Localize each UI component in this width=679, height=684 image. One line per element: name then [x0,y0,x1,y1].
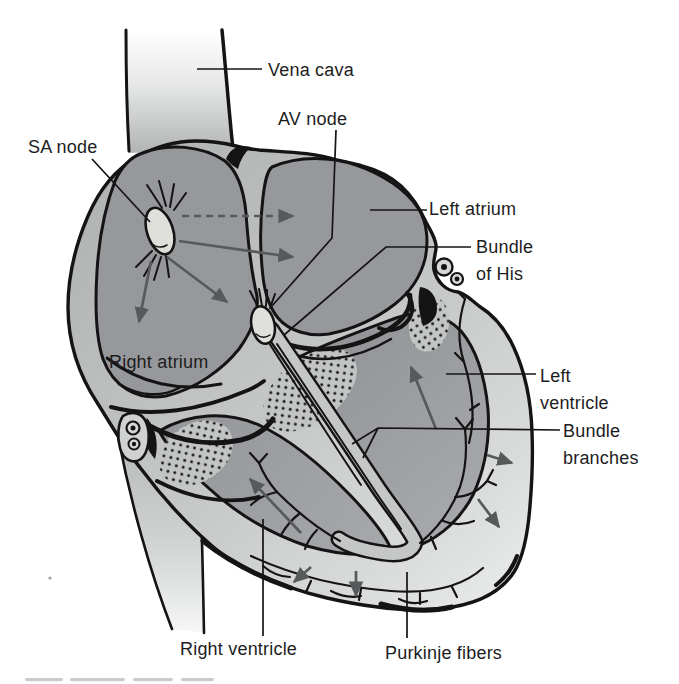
label-bundle-branches: Bundle branches [563,418,639,471]
label-sa-node: SA node [28,134,97,161]
label-left-ventricle-line1: Left [540,363,609,390]
label-right-atrium: Right atrium [109,349,208,376]
label-bundle-branches-line1: Bundle [563,418,639,445]
diagram-artwork [0,0,679,684]
label-bundle-of-his: Bundle of His [476,234,533,287]
label-left-atrium: Left atrium [429,196,516,223]
label-right-ventricle: Right ventricle [180,636,297,663]
heart-conduction-diagram: Vena cava AV node SA node Left atrium Bu… [0,0,679,684]
label-purkinje-fibers: Purkinje fibers [385,640,502,667]
label-bundle-of-his-line2: of His [476,261,533,288]
label-bundle-of-his-line1: Bundle [476,234,533,261]
label-bundle-branches-line2: branches [563,445,639,472]
label-left-ventricle-line2: ventricle [540,390,609,417]
label-av-node: AV node [278,106,347,133]
label-vena-cava: Vena cava [268,57,354,84]
vena-cava-vessel [126,30,233,153]
label-left-ventricle: Left ventricle [540,363,609,416]
